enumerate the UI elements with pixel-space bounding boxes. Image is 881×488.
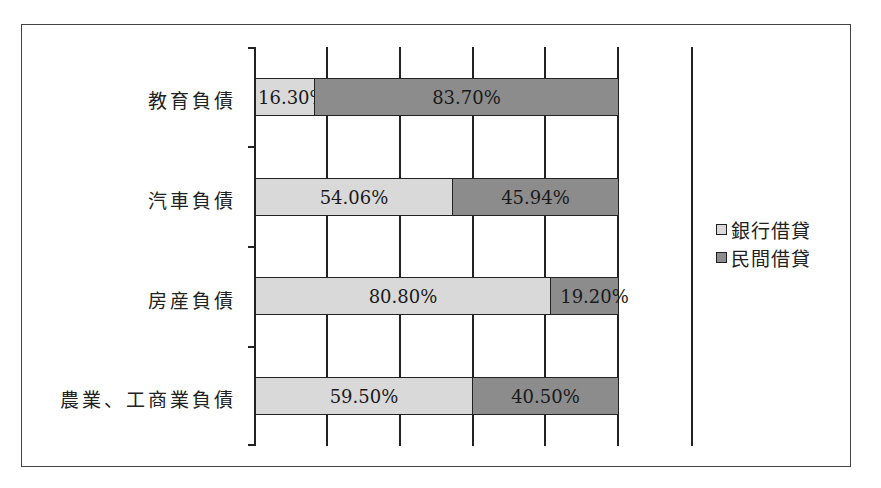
legend-item-bank: 銀行借貸	[716, 215, 811, 243]
axis-tick	[248, 146, 256, 148]
legend-label: 銀行借貸	[731, 216, 811, 243]
category-label-agri-business: 農業、工商業負債	[60, 385, 236, 412]
bar-value-label: 40.50%	[511, 386, 580, 407]
legend-swatch-icon	[716, 252, 727, 263]
bar-education-private: 83.70%	[314, 78, 619, 116]
axis-tick	[248, 47, 256, 49]
legend-swatch-icon	[716, 224, 727, 235]
category-label-education: 教育負債	[148, 86, 236, 113]
bar-education-bank: 16.30%	[255, 78, 315, 116]
bar-car-bank: 54.06%	[255, 178, 453, 216]
legend: 銀行借貸 民間借貸	[716, 215, 811, 271]
legend-item-private: 民間借貸	[716, 243, 811, 271]
bar-housing-bank: 80.80%	[255, 277, 551, 315]
axis-tick	[248, 246, 256, 248]
bar-value-label: 54.06%	[320, 187, 389, 208]
bar-housing-private: 19.20%	[550, 277, 619, 315]
axis-tick	[248, 346, 256, 348]
category-label-car: 汽車負債	[148, 186, 236, 213]
axis-tick	[248, 444, 256, 446]
bar-car-private: 45.94%	[452, 178, 619, 216]
bar-value-label: 19.20%	[560, 286, 629, 307]
legend-label: 民間借貸	[731, 244, 811, 271]
bar-agri-private: 40.50%	[472, 377, 619, 415]
bar-value-label: 45.94%	[501, 187, 570, 208]
bar-value-label: 83.70%	[432, 87, 501, 108]
plot-area: 教育負債 汽車負債 房産負債 農業、工商業負債 16.30% 83.70% 54…	[0, 0, 881, 488]
bar-value-label: 80.80%	[369, 286, 438, 307]
legend-separator-line	[691, 47, 693, 446]
bar-agri-bank: 59.50%	[255, 377, 473, 415]
category-label-housing: 房産負債	[148, 286, 236, 313]
bar-value-label: 59.50%	[330, 386, 399, 407]
